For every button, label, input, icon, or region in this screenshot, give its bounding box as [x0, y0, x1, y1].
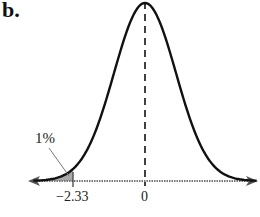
annotation-leader-line [49, 148, 69, 176]
tick-label-left: −2.33 [56, 189, 88, 205]
tail-percent-label: 1% [35, 130, 55, 147]
normal-distribution-chart [0, 0, 260, 217]
tick-label-center: 0 [141, 189, 148, 205]
